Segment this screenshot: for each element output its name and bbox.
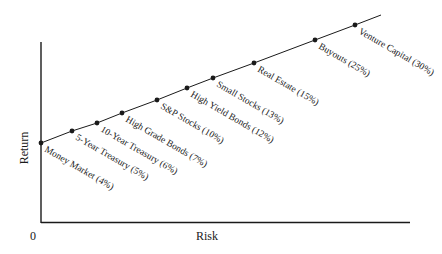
point-high-yield-bonds <box>185 86 190 91</box>
label-buyouts: Buyouts (25%) <box>317 41 373 79</box>
label-real-estate: Real Estate (15%) <box>256 64 321 108</box>
point-real-estate <box>252 61 257 66</box>
point-5yr-treasury <box>70 129 75 134</box>
y-axis-title: Return <box>17 132 31 165</box>
risk-return-chart: Money Market (4%) 5-Year Treasury (5%) 1… <box>0 0 442 254</box>
point-high-grade-bonds <box>120 111 125 116</box>
point-venture-capital <box>353 23 358 28</box>
origin-label: 0 <box>30 229 36 243</box>
point-small-stocks <box>211 76 216 81</box>
point-10yr-treasury <box>95 121 100 126</box>
label-small-stocks: Small Stocks (13%) <box>215 79 286 127</box>
point-buyouts <box>313 38 318 43</box>
x-axis-title: Risk <box>196 229 218 243</box>
point-money-market <box>39 141 44 146</box>
point-sp-stocks <box>155 98 160 103</box>
